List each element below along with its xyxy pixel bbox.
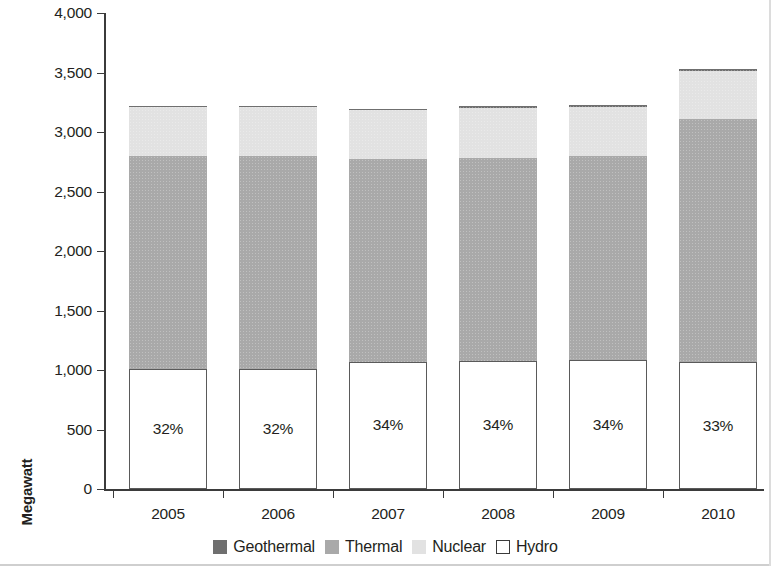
y-axis-tick-mark	[97, 489, 104, 490]
bar-value-label: 33%	[680, 416, 756, 434]
x-axis-tick-mark	[333, 490, 334, 498]
y-axis-tick-mark	[97, 370, 104, 371]
legend-item-nuclear[interactable]: Nuclear	[412, 538, 486, 556]
y-axis-title: Megawatt	[18, 432, 35, 552]
bar-2007[interactable]: 34%	[349, 13, 427, 489]
bar-2008[interactable]: 34%	[459, 13, 537, 489]
scan-texture	[679, 119, 757, 362]
legend-swatch-hydro-icon	[496, 540, 510, 554]
y-axis-tick-label: 2,500	[54, 183, 92, 201]
bar-segment-nuclear[interactable]	[459, 108, 537, 158]
bar-segment-thermal[interactable]	[679, 119, 757, 362]
bar-segment-hydro[interactable]: 34%	[459, 361, 537, 489]
plot-area: 05001,0001,5002,0002,5003,0003,5004,000 …	[104, 13, 764, 489]
bar-segment-nuclear[interactable]	[569, 107, 647, 156]
bar-segment-geothermal[interactable]	[679, 69, 757, 71]
scan-texture	[569, 105, 647, 107]
bar-value-label: 32%	[130, 420, 206, 438]
scan-texture	[569, 107, 647, 156]
bar-2010[interactable]: 33%	[679, 13, 757, 489]
x-axis-tick-mark	[443, 490, 444, 498]
scan-texture	[129, 156, 207, 369]
bar-segment-hydro[interactable]: 32%	[129, 369, 207, 489]
y-axis-tick-label: 1,000	[54, 361, 92, 379]
bar-segment-geothermal[interactable]	[239, 106, 317, 107]
bar-value-label: 34%	[460, 416, 536, 434]
bar-segment-thermal[interactable]	[129, 156, 207, 369]
y-axis-tick-mark	[97, 430, 104, 431]
y-axis-tick-label: 3,000	[54, 123, 92, 141]
scan-texture	[679, 71, 757, 119]
y-axis-tick-mark	[97, 251, 104, 252]
bar-value-label: 32%	[240, 420, 316, 438]
bar-segment-thermal[interactable]	[349, 159, 427, 361]
chart-legend: GeothermalThermalNuclearHydro	[0, 538, 771, 556]
bar-segment-nuclear[interactable]	[129, 106, 207, 155]
bar-segment-thermal[interactable]	[239, 156, 317, 369]
x-axis-tick-mark	[553, 490, 554, 498]
scan-texture	[239, 106, 317, 107]
y-axis-line	[104, 13, 106, 490]
scan-texture	[459, 106, 537, 108]
bar-2009[interactable]: 34%	[569, 13, 647, 489]
legend-label: Nuclear	[432, 538, 486, 556]
bar-segment-nuclear[interactable]	[349, 109, 427, 159]
x-axis-line	[104, 489, 764, 491]
x-axis-tick-label: 2010	[701, 505, 735, 523]
legend-swatch-thermal-icon	[325, 540, 339, 554]
bar-segment-hydro[interactable]: 33%	[679, 362, 757, 489]
legend-item-hydro[interactable]: Hydro	[496, 538, 558, 556]
x-axis-tick-label: 2006	[261, 505, 295, 523]
y-axis-tick-label: 3,500	[54, 64, 92, 82]
legend-item-geothermal[interactable]: Geothermal	[213, 538, 315, 556]
bar-segment-geothermal[interactable]	[129, 106, 207, 107]
legend-item-thermal[interactable]: Thermal	[325, 538, 402, 556]
bar-segment-thermal[interactable]	[459, 158, 537, 361]
x-axis-tick-label: 2008	[481, 505, 515, 523]
x-axis-tick-mark	[223, 490, 224, 498]
bar-segment-hydro[interactable]: 34%	[349, 362, 427, 489]
bar-2006[interactable]: 32%	[239, 13, 317, 489]
y-axis-tick-mark	[97, 73, 104, 74]
y-axis-tick-label: 500	[67, 421, 92, 439]
x-axis-tick-label: 2009	[591, 505, 625, 523]
y-axis-tick-mark	[97, 132, 104, 133]
bar-segment-thermal[interactable]	[569, 156, 647, 361]
bar-segment-geothermal[interactable]	[459, 106, 537, 108]
scan-texture	[569, 156, 647, 361]
scan-texture	[349, 159, 427, 361]
scan-texture	[239, 156, 317, 369]
scan-texture	[459, 108, 537, 158]
x-axis-tick-label: 2005	[151, 505, 185, 523]
scan-texture	[239, 106, 317, 155]
legend-label: Hydro	[516, 538, 558, 556]
y-axis-tick-mark	[97, 192, 104, 193]
bar-segment-nuclear[interactable]	[239, 106, 317, 155]
y-axis-tick-label: 2,000	[54, 242, 92, 260]
x-axis-tick-mark	[113, 490, 114, 498]
scan-texture	[129, 106, 207, 107]
bar-value-label: 34%	[350, 416, 426, 434]
x-axis-tick-mark	[663, 490, 664, 498]
bar-segment-hydro[interactable]: 34%	[569, 360, 647, 489]
bar-segment-hydro[interactable]: 32%	[239, 369, 317, 489]
scan-texture	[679, 69, 757, 71]
y-axis-tick-label: 1,500	[54, 302, 92, 320]
legend-swatch-geothermal-icon	[213, 540, 227, 554]
y-axis-tick-label: 4,000	[54, 4, 92, 22]
y-axis-tick-label: 0	[84, 480, 92, 498]
bar-2005[interactable]: 32%	[129, 13, 207, 489]
bar-segment-nuclear[interactable]	[679, 71, 757, 119]
legend-swatch-nuclear-icon	[412, 540, 426, 554]
bar-value-label: 34%	[570, 415, 646, 433]
scan-texture	[459, 158, 537, 361]
bar-segment-geothermal[interactable]	[569, 105, 647, 107]
scan-texture	[349, 109, 427, 110]
legend-label: Thermal	[345, 538, 402, 556]
scan-texture	[129, 106, 207, 155]
x-axis-tick-label: 2007	[371, 505, 405, 523]
y-axis-tick-mark	[97, 311, 104, 312]
bar-segment-geothermal[interactable]	[349, 109, 427, 110]
scan-texture	[349, 109, 427, 159]
stacked-bar-chart: Megawatt 05001,0001,5002,0002,5003,0003,…	[0, 0, 771, 566]
